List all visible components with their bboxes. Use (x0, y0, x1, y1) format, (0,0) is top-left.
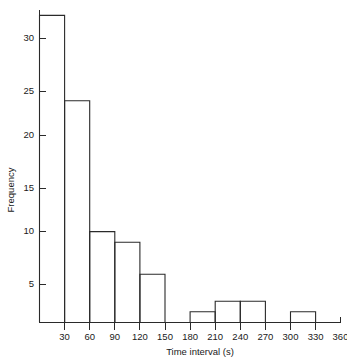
x-tick-180: 180 (182, 323, 198, 343)
histogram-bars (40, 15, 316, 322)
y-tick-label-20: 20 (23, 129, 34, 140)
y-tick-label-25: 25 (23, 85, 34, 96)
histogram-bar-4 (140, 274, 165, 322)
x-tick-label-60: 60 (84, 331, 95, 342)
histogram-bar-7 (215, 301, 240, 322)
x-tick-group: 30 60 90 120 150 180 (59, 323, 347, 343)
y-tick-30: 30 (23, 32, 45, 43)
x-tick-150: 150 (157, 323, 173, 343)
histogram-bar-8 (240, 301, 265, 322)
y-tick-label-15: 15 (23, 182, 34, 193)
histogram-bar-3 (115, 242, 140, 322)
x-tick-90: 90 (110, 323, 121, 343)
x-tick-60: 60 (84, 323, 95, 343)
x-tick-label-90: 90 (110, 331, 121, 342)
x-tick-label-210: 210 (207, 331, 223, 342)
y-tick-15: 15 (23, 182, 45, 193)
x-tick-label-150: 150 (157, 331, 173, 342)
x-tick-label-180: 180 (182, 331, 198, 342)
histogram-bar-0 (40, 15, 65, 322)
y-tick-20: 20 (23, 129, 45, 140)
y-tick-10: 10 (23, 225, 45, 236)
y-tick-label-30: 30 (23, 32, 34, 43)
histogram-bar-2 (90, 232, 115, 323)
histogram-figure: 5 10 15 20 25 30 (0, 0, 347, 363)
histogram-bar-6 (190, 312, 215, 323)
x-tick-label-330: 330 (308, 331, 324, 342)
x-tick-270: 270 (257, 323, 273, 343)
histogram-bar-1 (65, 101, 90, 323)
x-tick-label-240: 240 (232, 331, 248, 342)
y-tick-label-10: 10 (23, 225, 34, 236)
chart-canvas: 5 10 15 20 25 30 (0, 0, 347, 363)
x-tick-210: 210 (207, 323, 223, 343)
x-tick-label-120: 120 (132, 331, 148, 342)
y-tick-label-5: 5 (29, 278, 34, 289)
x-tick-330: 330 (308, 323, 324, 343)
y-tick-group: 5 10 15 20 25 30 (23, 32, 45, 290)
x-tick-30: 30 (59, 323, 70, 343)
x-tick-label-360: 360 (333, 331, 347, 342)
x-tick-360: 360 (333, 331, 347, 342)
y-tick-25: 25 (23, 85, 45, 96)
x-axis-title: Time interval (s) (166, 346, 234, 357)
x-tick-300: 300 (283, 323, 299, 343)
x-tick-label-270: 270 (257, 331, 273, 342)
y-axis-title: Frequency (5, 167, 16, 212)
x-tick-label-30: 30 (59, 331, 70, 342)
x-tick-240: 240 (232, 323, 248, 343)
y-tick-5: 5 (29, 278, 46, 289)
x-tick-120: 120 (132, 323, 148, 343)
histogram-bar-10 (291, 312, 316, 323)
x-tick-label-300: 300 (283, 331, 299, 342)
